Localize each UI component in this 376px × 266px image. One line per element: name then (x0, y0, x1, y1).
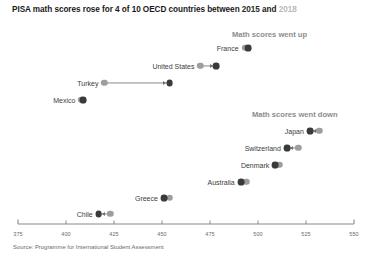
data-row: United States (0, 59, 376, 73)
marker-2018-mexico[interactable] (80, 97, 87, 104)
group-header-scores-up: Math scores went up (232, 30, 307, 39)
row-label-chile: Chile (77, 211, 93, 218)
row-label-japan: Japan (285, 128, 304, 135)
row-label-denmark: Denmark (241, 162, 269, 169)
marker-2015-japan[interactable] (316, 128, 322, 134)
direction-arrow-right (210, 64, 213, 68)
axis-tick-500: 500 (253, 231, 262, 237)
chart-title-main: PISA math scores rose for 4 of 10 OECD c… (12, 5, 242, 14)
data-row: Denmark (0, 158, 376, 172)
chart-title-conjunction: and (260, 5, 279, 14)
marker-2015-australia[interactable] (243, 179, 249, 185)
axis-tick-425: 425 (109, 231, 118, 237)
row-label-mexico: Mexico (53, 97, 75, 104)
axis-tick-375: 375 (13, 231, 22, 237)
row-label-switzerland: Switzerland (245, 145, 281, 152)
direction-arrow-left (290, 146, 293, 150)
data-row: Australia (0, 175, 376, 189)
row-label-united-states: United States (152, 63, 194, 70)
marker-2018-greece[interactable] (161, 195, 168, 202)
data-row: Chile (0, 207, 376, 221)
axis-tick-450: 450 (157, 231, 166, 237)
data-row: Japan (0, 124, 376, 138)
axis-tick-475: 475 (205, 231, 214, 237)
connector-line (107, 82, 167, 83)
marker-2018-denmark[interactable] (272, 162, 279, 169)
marker-2018-france[interactable] (245, 45, 252, 52)
marker-2018-turkey[interactable] (166, 80, 173, 87)
chart-title-year-2015: 2015 (242, 5, 260, 14)
row-label-france: France (217, 45, 239, 52)
marker-2015-turkey[interactable] (101, 80, 107, 86)
axis-tick-550: 550 (349, 231, 358, 237)
marker-2015-switzerland[interactable] (295, 145, 301, 151)
data-row: Switzerland (0, 141, 376, 155)
data-row: Turkey (0, 76, 376, 90)
row-label-australia: Australia (208, 179, 235, 186)
source-note: Source: Programme for International Stud… (13, 244, 164, 250)
chart-title: PISA math scores rose for 4 of 10 OECD c… (12, 5, 297, 14)
group-header-scores-down: Math scores went down (252, 110, 338, 119)
marker-2015-chile[interactable] (107, 211, 113, 217)
pisa-dumbbell-chart: PISA math scores rose for 4 of 10 OECD c… (0, 0, 376, 266)
row-label-turkey: Turkey (77, 80, 98, 87)
axis-tick-525: 525 (301, 231, 310, 237)
marker-2015-united-states[interactable] (197, 63, 203, 69)
data-row: Greece (0, 191, 376, 205)
direction-arrow-left (313, 129, 316, 133)
marker-2018-united-states[interactable] (212, 63, 219, 70)
data-row: France (0, 41, 376, 55)
marker-2015-greece[interactable] (166, 195, 172, 201)
axis-tick-400: 400 (61, 231, 70, 237)
data-row: Mexico (0, 93, 376, 107)
direction-arrow-right (163, 81, 166, 85)
marker-2018-australia[interactable] (237, 179, 244, 186)
row-label-greece: Greece (135, 195, 158, 202)
direction-arrow-left (102, 212, 105, 216)
chart-title-year-2018: 2018 (279, 5, 297, 14)
